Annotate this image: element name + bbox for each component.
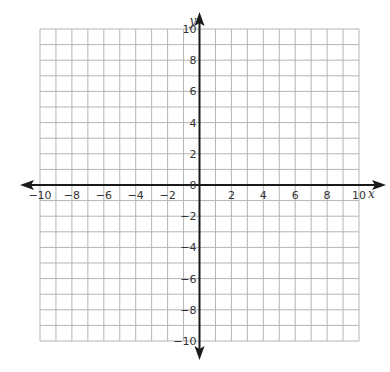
y-tick-label: −2 (180, 210, 196, 223)
y-tick-label: −10 (173, 335, 196, 348)
x-tick-label: 4 (260, 189, 267, 202)
origin-label: 0 (190, 179, 197, 192)
y-tick-label: 2 (190, 148, 197, 161)
y-tick-label: 4 (190, 117, 197, 130)
x-tick-label: −2 (159, 189, 175, 202)
axes (20, 12, 386, 360)
y-tick-label: −6 (180, 273, 196, 286)
x-tick-labels: −10−8−6−4−2246810 (28, 189, 366, 202)
x-axis-label: x (368, 187, 375, 201)
y-axis-label: y (189, 14, 197, 28)
x-tick-label: −10 (28, 189, 51, 202)
x-tick-label: 6 (292, 189, 299, 202)
y-tick-label: 6 (190, 85, 197, 98)
y-tick-label: 8 (190, 54, 197, 67)
x-tick-label: 2 (228, 189, 235, 202)
y-tick-label: −4 (180, 241, 196, 254)
y-tick-label: −8 (180, 304, 196, 317)
x-tick-label: 8 (324, 189, 331, 202)
x-tick-label: 10 (352, 189, 366, 202)
coordinate-plane: −10−8−6−4−2246810 108642−2−4−6−8−10 0 x … (0, 0, 390, 372)
x-tick-label: −8 (64, 189, 80, 202)
x-tick-label: −6 (96, 189, 112, 202)
x-tick-label: −4 (128, 189, 144, 202)
